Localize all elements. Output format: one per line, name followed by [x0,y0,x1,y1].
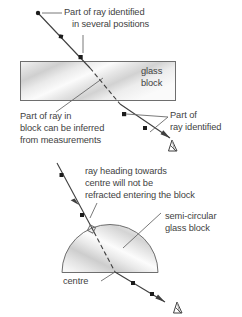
pin-marker-icon [174,302,183,313]
callout-incident-line1: Part of ray identified [64,7,144,18]
leader-centre-label [101,272,115,281]
callout-emergent-line1: Part of [170,110,197,121]
ray-point [36,11,40,15]
callout-internal-line1: Part of ray in [20,111,71,122]
ray-point [143,126,147,130]
glass-block-label-line1: glass [141,66,162,77]
ray-point [131,281,135,285]
callout-internal-line3: from measurements [20,135,101,146]
figure-canvas: Part of ray identified in several positi… [0,0,242,317]
ray-diagram-svg [0,0,242,317]
emergent-ray-arrowhead [161,130,171,138]
callout-incident-line2: in several positions [72,19,149,30]
leader-emergent-a [126,114,168,117]
ray-point [79,55,83,59]
ray-point [60,173,64,177]
callout-block-line1: semi-circular [165,211,216,222]
centre-label: centre [63,276,88,287]
pin-marker-icon [169,140,178,151]
emergent-ray-arrowhead [155,294,165,302]
ray-point [122,112,126,116]
callout-emergent-line2: ray identified [170,122,221,133]
ray-point [80,213,84,217]
callout-centre-ray-line1: ray heading towards [85,166,167,177]
ray-point [150,292,154,296]
semicircular-glass-block [62,225,158,273]
callout-centre-ray-line2: centre will not be [85,178,153,189]
leader-centre-ray [90,203,97,218]
callout-centre-ray-line3: refracted entering the block [85,190,195,201]
glass-block-label-line2: block [141,78,162,89]
leader-emergent-b [150,117,168,132]
ray-point [59,34,64,39]
callout-block-line2: glass block [165,223,210,234]
callout-internal-line2: block can be inferred [20,123,104,134]
